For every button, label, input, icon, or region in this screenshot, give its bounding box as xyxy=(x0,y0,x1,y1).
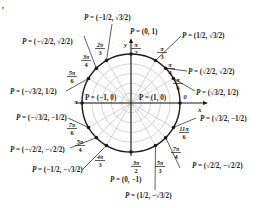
angle-label-300-numerator: 5π xyxy=(157,159,164,166)
coordinate-label-30: P = (√3/2, 1/2) xyxy=(196,89,239,97)
angle-label-330: 11π6 xyxy=(179,125,189,140)
coordinate-text: P = (−1/2, √3/2) xyxy=(84,14,131,22)
coordinate-label-225: P = (−√2/2, −√2/2) xyxy=(10,146,65,154)
point-marker-0 xyxy=(178,101,182,105)
angle-label-300-denominator: 3 xyxy=(158,167,161,174)
coordinate-label-240: P = (−1/2, −√3/2) xyxy=(32,166,83,174)
coordinate-text: P = (−1/2, −√3/2) xyxy=(32,166,83,174)
point-value: = (−√2/2, −√2/2) xyxy=(16,146,65,154)
leader-line-300 xyxy=(155,145,156,190)
angle-label-225-numerator: 5π xyxy=(77,138,84,145)
angle-label-90-denominator: 2 xyxy=(134,49,137,56)
angle-label-315: 7π4 xyxy=(171,145,181,160)
angle-label-45: π4 xyxy=(165,61,175,76)
coordinate-text: P = (0, 1) xyxy=(130,28,158,36)
angle-label-60-numerator: π xyxy=(160,45,164,52)
angle-label-60-denominator: 3 xyxy=(160,53,163,60)
coordinate-text: P = (1/2, −√3/2) xyxy=(125,192,172,200)
leader-line-120 xyxy=(107,24,113,61)
point-value: = (1/2, −√3/2) xyxy=(131,192,172,200)
point-marker-210 xyxy=(87,126,91,130)
coordinate-label-120: P = (−1/2, √3/2) xyxy=(84,14,131,22)
point-marker-330 xyxy=(172,126,176,130)
angle-label-45-numerator: π xyxy=(168,61,172,68)
angle-label-210: 7π6 xyxy=(67,121,77,136)
angle-label-30-denominator: 6 xyxy=(176,84,180,91)
angle-label-300: 5π3 xyxy=(155,159,165,174)
angle-label-0: 0 xyxy=(183,93,187,100)
point-value: = (√2/2, √2/2) xyxy=(194,68,235,76)
point-marker-30 xyxy=(172,77,176,81)
point-value: = (√3/2, −1/2) xyxy=(206,115,247,123)
angle-label-90-numerator: π xyxy=(134,41,138,48)
point-value: = (−√3/2, 1/2) xyxy=(16,88,57,96)
y-axis-arrow-icon xyxy=(129,38,133,43)
unit-circle-svg: xy, 0π6π4π3π22π33π45π6π7π65π44π33π25π37π… xyxy=(0,0,258,208)
coordinate-text: P = (√2/2, −√2/2) xyxy=(192,162,243,170)
angle-label-240-denominator: 3 xyxy=(98,161,101,168)
point-value: = (−1/2, −√3/2) xyxy=(38,166,83,174)
coordinate-label-60: P = (1/2, √3/2) xyxy=(182,32,225,40)
point-marker-270 xyxy=(129,150,133,154)
angle-label-225-denominator: 4 xyxy=(78,146,82,153)
coordinate-label-210: P = (−√3/2, −1/2) xyxy=(16,114,67,122)
point-marker-135 xyxy=(95,67,99,71)
point-marker-150 xyxy=(87,77,91,81)
angle-label-315-numerator: 7π xyxy=(173,145,180,152)
angle-label-30-numerator: π xyxy=(176,76,180,83)
point-value: = (1/2, √3/2) xyxy=(188,32,225,40)
angle-label-135-denominator: 4 xyxy=(84,61,88,68)
angle-label-210-denominator: 6 xyxy=(70,129,74,136)
angle-label-240: 4π3 xyxy=(95,153,105,168)
angle-label-210-numerator: 7π xyxy=(69,121,76,128)
x-axis-label: x xyxy=(197,106,202,114)
coordinate-text: P = (−√3/2, −1/2) xyxy=(16,114,67,122)
point-marker-240 xyxy=(105,144,109,148)
coordinate-text: P = (−√2/2, √2/2) xyxy=(22,38,73,46)
angle-label-150: 5π6 xyxy=(67,69,77,84)
angle-label-180-value: π xyxy=(74,98,78,105)
point-value: = (0, 1) xyxy=(136,28,158,36)
angle-label-270-denominator: 2 xyxy=(134,167,137,174)
coordinate-label-150: P = (−√3/2, 1/2) xyxy=(10,88,57,96)
coordinate-text: P = (−√3/2, 1/2) xyxy=(10,88,57,96)
corner-mark: , xyxy=(2,2,4,10)
point-value: = (−√2/2, √2/2) xyxy=(28,38,73,46)
point-value: = (√3/2, 1/2) xyxy=(202,89,239,97)
coordinate-text: P = (√2/2, √2/2) xyxy=(188,68,235,76)
point-marker-225 xyxy=(95,136,99,140)
coordinate-text: P = (1/2, √3/2) xyxy=(182,32,225,40)
inner-label-left: P = (−1, 0) xyxy=(85,94,117,102)
y-axis-label: y xyxy=(123,41,128,49)
angle-label-240-numerator: 4π xyxy=(96,153,104,160)
angle-label-135: 3π4 xyxy=(81,53,91,68)
angle-label-120-numerator: 2π xyxy=(96,41,104,48)
coordinate-label-45: P = (√2/2, √2/2) xyxy=(188,68,235,76)
coordinate-label-315: P = (√2/2, −√2/2) xyxy=(192,162,243,170)
coordinate-text: P = (0, −1) xyxy=(110,176,142,184)
angle-label-225: 5π4 xyxy=(75,138,85,153)
angle-label-0-value: 0 xyxy=(183,93,187,100)
coordinate-text: P = (√3/2, −1/2) xyxy=(200,115,247,123)
point-value: = (−1/2, √3/2) xyxy=(90,14,131,22)
angle-label-120: 2π3 xyxy=(95,41,105,56)
inner-label-right: P = (1, 0) xyxy=(139,94,167,102)
angle-label-120-denominator: 3 xyxy=(98,49,101,56)
point-value: = (−√3/2, −1/2) xyxy=(22,114,67,122)
angle-label-270-numerator: 3π xyxy=(132,159,140,166)
point-value: = (0, −1) xyxy=(116,176,142,184)
angle-label-135-numerator: 3π xyxy=(82,53,90,60)
coordinate-text: P = (√3/2, 1/2) xyxy=(196,89,239,97)
coordinate-label-300: P = (1/2, −√3/2) xyxy=(125,192,172,200)
angle-label-330-numerator: 11π xyxy=(179,125,189,132)
point-marker-90 xyxy=(129,52,133,56)
coordinate-label-270: P = (0, −1) xyxy=(110,176,142,184)
point-marker-120 xyxy=(105,59,109,63)
angle-label-180: π xyxy=(74,98,78,105)
point-marker-60 xyxy=(154,59,158,63)
point-value: = (√2/2, −√2/2) xyxy=(198,162,243,170)
point-marker-180 xyxy=(80,101,84,105)
coordinate-text: P = (−√2/2, −√2/2) xyxy=(10,146,65,154)
coordinate-label-135: P = (−√2/2, √2/2) xyxy=(22,38,73,46)
angle-label-330-denominator: 6 xyxy=(182,133,186,140)
